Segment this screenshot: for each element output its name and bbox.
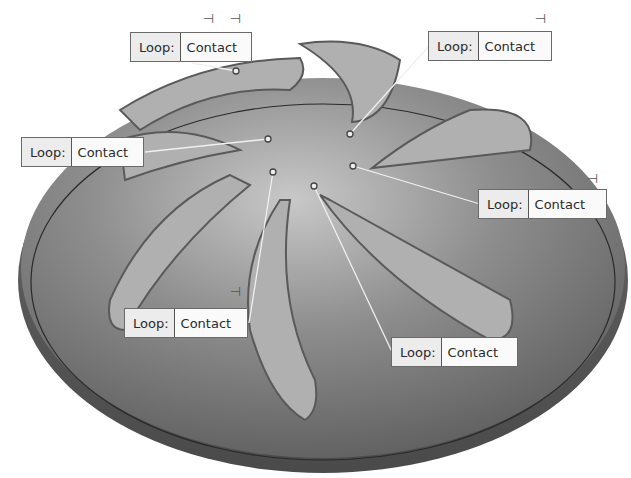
pin-icon[interactable]: ⊣ — [535, 12, 546, 25]
pin-icon[interactable]: ⊣ — [230, 285, 241, 298]
callout-loop-contact-6[interactable]: Loop: Contact — [391, 337, 518, 367]
callout-key: Loop: — [392, 338, 442, 366]
callout-key: Loop: — [125, 309, 175, 337]
pin-icon[interactable]: ⊣ — [230, 12, 241, 25]
cad-viewport[interactable] — [0, 0, 631, 478]
callout-loop-contact-5[interactable]: Loop: Contact — [124, 308, 248, 338]
callout-key: Loop: — [22, 138, 72, 166]
callout-value: Contact — [181, 33, 251, 61]
callout-value: Contact — [442, 338, 517, 366]
callout-key: Loop: — [479, 190, 529, 218]
callout-key: Loop: — [131, 33, 181, 61]
disc-model[interactable] — [18, 42, 628, 473]
callout-value: Contact — [175, 309, 247, 337]
callout-key: Loop: — [429, 32, 479, 60]
callout-value: Contact — [72, 138, 143, 166]
callout-loop-contact-2[interactable]: Loop: Contact — [428, 31, 552, 61]
callout-value: Contact — [479, 32, 551, 60]
pin-icon[interactable]: ⊣ — [587, 172, 598, 185]
callout-value: Contact — [529, 190, 606, 218]
callout-loop-contact-3[interactable]: Loop: Contact — [21, 137, 144, 167]
callout-loop-contact-4[interactable]: Loop: Contact — [478, 189, 607, 219]
callout-loop-contact-1[interactable]: Loop: Contact — [130, 32, 252, 62]
pin-icon[interactable]: ⊣ — [203, 12, 214, 25]
